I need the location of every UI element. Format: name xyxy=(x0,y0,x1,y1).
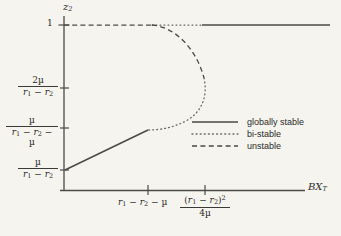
middle-branch-unstable xyxy=(152,25,204,78)
fraction-denominator: r1 − r2 − µ xyxy=(6,126,58,147)
fraction-denominator: r1 − r2 xyxy=(18,86,58,98)
bifurcation-diagram: z2 BXT 1 2µ r1 − r2 µ r1 − r2 − µ µ r1 −… xyxy=(0,0,341,236)
legend-label-bi-stable: bi-stable xyxy=(247,129,281,139)
fraction-numerator: µ xyxy=(6,116,58,126)
fraction-numerator: µ xyxy=(18,158,58,168)
legend-label-unstable: unstable xyxy=(247,141,281,151)
y-tick-label-mu-over-r1-minus-r2-minus-mu: µ r1 − r2 − µ xyxy=(6,116,58,147)
x-tick-label-r1-minus-r2-minus-mu: r1 − r2 − µ xyxy=(118,198,167,208)
fraction-numerator: (r1 − r2)2 xyxy=(180,195,230,207)
fraction-denominator: r1 − r2 xyxy=(18,168,58,180)
x-axis-label: BXT xyxy=(308,182,327,193)
y-tick-label-mu-over-r1-minus-r2: µ r1 − r2 xyxy=(18,158,58,180)
lower-branch-globally-stable xyxy=(65,130,148,170)
y-axis-label: z2 xyxy=(63,2,72,13)
y-tick-label-one: 1 xyxy=(47,19,53,28)
fraction-numerator: 2µ xyxy=(18,76,58,86)
x-tick-label-r1-minus-r2-squared-over-4mu: (r1 − r2)2 4µ xyxy=(180,195,230,218)
fraction-denominator: 4µ xyxy=(180,207,230,218)
legend-label-globally-stable: globally stable xyxy=(247,117,304,127)
y-tick-label-2mu-over-r1-minus-r2: 2µ r1 − r2 xyxy=(18,76,58,98)
